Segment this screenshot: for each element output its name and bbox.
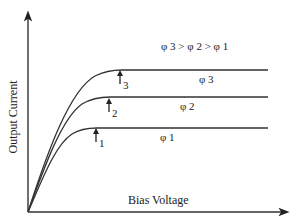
svg-text:2: 2	[112, 107, 118, 119]
svg-text:1: 1	[99, 137, 105, 149]
phi2-label: φ 2	[180, 100, 195, 112]
relation-label: φ 3 > φ 2 > φ 1	[161, 40, 228, 52]
phi1-label: φ 1	[160, 131, 175, 143]
saturation-marker-2: 2	[106, 98, 118, 119]
iv-curve-diagram: 3 2 1 φ 3 > φ 2 > φ 1 φ 3 φ 2 φ 1 Bias V…	[0, 0, 294, 221]
svg-text:3: 3	[123, 79, 129, 91]
y-axis-label: Output Current	[6, 80, 20, 154]
saturation-marker-3: 3	[117, 70, 129, 91]
phi3-label: φ 3	[199, 73, 214, 85]
x-axis-label: Bias Voltage	[128, 193, 189, 207]
saturation-marker-1: 1	[93, 128, 105, 149]
